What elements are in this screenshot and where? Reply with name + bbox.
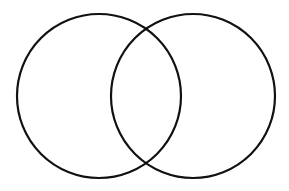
venn-diagram xyxy=(0,0,289,191)
venn-circle-right xyxy=(111,14,275,178)
venn-circle-left xyxy=(17,14,181,178)
